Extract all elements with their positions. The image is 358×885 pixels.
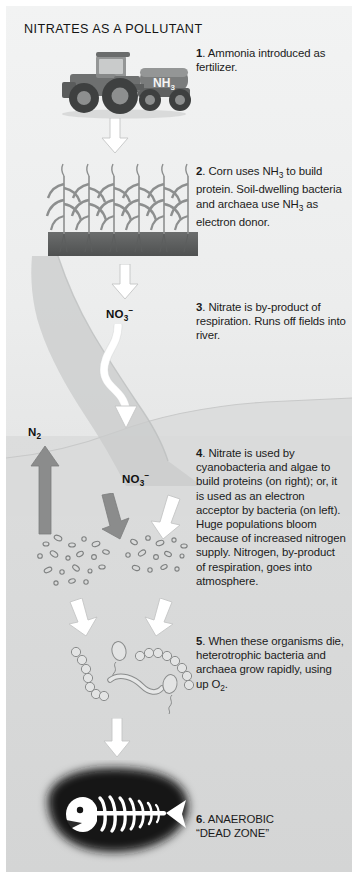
tractor-illustration: NH3 <box>54 42 194 120</box>
nitrate-label-lower: NO3− <box>122 471 149 488</box>
corn-field-illustration <box>26 156 198 256</box>
page-title: NITRATES AS A POLLUTANT <box>24 22 203 36</box>
microbe-bloom-clusters <box>28 530 196 592</box>
dinitrogen-label: N2 <box>28 426 41 441</box>
white-down-arrow-1 <box>100 118 130 154</box>
coccus-chain-left <box>71 647 108 700</box>
dinitrogen-label-text: N2 <box>28 426 41 438</box>
white-down-arrow-2 <box>110 264 140 300</box>
nitrate-label-upper: NO3− <box>106 306 133 323</box>
step-4-text: 4. Nitrate is used by cyanobacteria and … <box>196 446 346 588</box>
cyanobacteria-algae-bloom-cluster-right <box>126 536 187 573</box>
infographic-panel: NITRATES AS A POLLUTANT NH3 <box>6 6 352 872</box>
dying-organisms-illustration <box>46 634 198 714</box>
bacteria-bloom-cluster-left <box>38 534 110 585</box>
nitrate-label-lower-text: NO3− <box>122 473 149 485</box>
white-curved-runoff-arrow <box>98 324 158 444</box>
step-6-text: 6. ANAEROBIC“DEAD ZONE” <box>196 812 346 840</box>
white-down-arrow-deadzone <box>102 718 132 758</box>
white-down-arrow-left-converge <box>66 598 100 638</box>
spirillum-center <box>110 676 162 692</box>
step-1-text: 1. Ammonia introduced as fertilizer. <box>196 46 346 74</box>
step-3-text: 3. Nitrate is by-product of respiration.… <box>196 300 346 343</box>
nitrate-label-upper-text: NO3− <box>106 308 133 320</box>
dead-zone-illustration <box>20 760 200 870</box>
flagellated-organism-lower <box>161 673 178 714</box>
step-5-text: 5. When these organisms die, heterotroph… <box>196 634 346 695</box>
white-down-arrow-right-converge <box>142 598 176 638</box>
step-2-text: 2. Corn uses NH3 to build protein. Soil-… <box>196 164 346 229</box>
gray-up-arrow-n2 <box>28 444 62 536</box>
